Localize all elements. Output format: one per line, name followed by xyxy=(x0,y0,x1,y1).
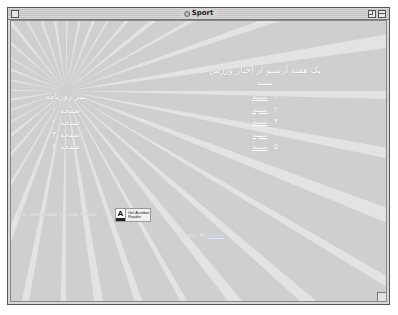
archive-day-item[interactable]: ۵شنبه xyxy=(180,141,350,154)
credit-author-link[interactable]: Moein xyxy=(208,232,224,238)
archive-day-number: ۵ xyxy=(274,142,278,151)
archive-day-link[interactable]: شنبه xyxy=(252,117,268,126)
design-credit: Design By Moein xyxy=(179,232,224,238)
adobe-logo-bar xyxy=(116,218,125,221)
newspaper-pages-list: صفحه۱صفحه۲صفحه۳صفحه۴ xyxy=(31,105,101,153)
archive-day-link[interactable]: شنبه xyxy=(252,142,268,151)
adobe-logo-icon: A xyxy=(116,209,126,221)
archive-heading: یک هفته آرشیو از اخبار ورزش xyxy=(180,65,350,75)
newspaper-page-link[interactable]: صفحه۳ xyxy=(31,129,101,141)
archive-day-item[interactable]: ۱شنبه xyxy=(180,91,350,104)
resize-handle[interactable] xyxy=(377,292,386,301)
title-bar[interactable]: Sport xyxy=(8,8,389,20)
archive-day-item[interactable]: ۳شنبه xyxy=(180,116,350,129)
get-acrobat-reader-button[interactable]: A Get Acrobat Reader xyxy=(115,208,151,222)
window-title: Sport xyxy=(192,8,214,19)
collapse-box-button[interactable] xyxy=(378,10,386,18)
archive-section: یک هفته آرشیو از اخبار ورزش شنبه ۱شنبه۲ش… xyxy=(180,65,350,154)
browser-window: Sport یک هفته آرشیو از اخبار ورزش شنبه ۱… xyxy=(7,7,390,305)
newspaper-page-link[interactable]: صفحه۱ xyxy=(31,105,101,117)
archive-day-number: ۲ xyxy=(274,105,278,114)
archive-day-link[interactable]: شنبه xyxy=(252,105,268,114)
archive-day-number: ۴ xyxy=(274,130,278,139)
acrobat-badge-text: Get Acrobat Reader xyxy=(126,211,149,220)
sunburst-background xyxy=(11,21,387,302)
zoom-box-button[interactable] xyxy=(368,10,376,18)
newspaper-page-label: صفحه xyxy=(60,118,80,127)
newspaper-section: تیتر روزنامه صفحه۱صفحه۲صفحه۳صفحه۴ xyxy=(31,91,101,153)
newspaper-page-number: ۴ xyxy=(52,142,56,151)
newspaper-page-number: ۲ xyxy=(52,118,56,127)
newspaper-page-label: صفحه xyxy=(60,106,80,115)
newspaper-page-link[interactable]: صفحه۲ xyxy=(31,117,101,129)
archive-day-item[interactable]: ۴شنبه xyxy=(180,129,350,142)
acrobat-note: You need Adobe Acrobat Reader xyxy=(18,211,98,217)
archive-day-item[interactable]: ۲شنبه xyxy=(180,104,350,117)
newspaper-page-label: صفحه xyxy=(60,142,80,151)
archive-day-number: ۳ xyxy=(274,117,278,126)
archive-day-link[interactable]: شنبه xyxy=(252,92,268,101)
newspaper-page-label: صفحه xyxy=(60,130,80,139)
adobe-logo-letter: A xyxy=(118,209,124,218)
archive-day-link[interactable]: شنبه xyxy=(252,130,268,139)
newspaper-page-number: ۱ xyxy=(52,106,56,115)
archive-day-number: ۱ xyxy=(274,92,278,101)
archive-days-list: ۱شنبه۲شنبه۳شنبه۴شنبه۵شنبه xyxy=(180,91,350,154)
title-wrap: Sport xyxy=(180,8,218,19)
newspaper-heading: تیتر روزنامه xyxy=(31,91,101,101)
globe-icon xyxy=(184,11,190,17)
close-box-button[interactable] xyxy=(11,10,19,18)
credit-prefix: Design By xyxy=(179,232,206,238)
acrobat-badge-line2: Reader xyxy=(128,215,149,220)
newspaper-page-link[interactable]: صفحه۴ xyxy=(31,141,101,153)
page-content: یک هفته آرشیو از اخبار ورزش شنبه ۱شنبه۲ش… xyxy=(10,20,387,302)
archive-day-header: شنبه xyxy=(180,78,350,87)
newspaper-page-number: ۳ xyxy=(52,130,56,139)
